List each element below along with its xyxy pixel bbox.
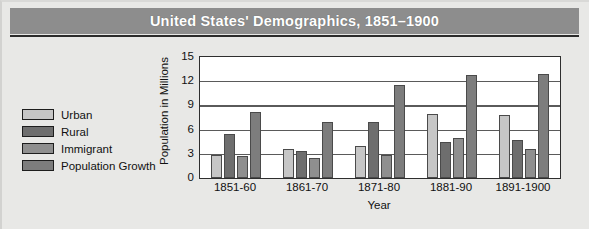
bar xyxy=(525,149,536,178)
x-axis-tick-label: 1851-60 xyxy=(199,181,271,193)
y-axis-title-text: Population in Millions xyxy=(158,57,170,165)
chart-plot-area: Population in Millions 03691215 1851-601… xyxy=(160,44,580,224)
y-axis-tick-label: 12 xyxy=(181,74,194,86)
x-axis-tick-label: 1861-70 xyxy=(271,181,343,193)
bar xyxy=(296,151,307,178)
bar xyxy=(427,114,438,178)
legend-label: Population Growth xyxy=(61,160,156,172)
legend-swatch xyxy=(22,160,54,171)
chart-legend: UrbanRuralImmigrantPopulation Growth xyxy=(22,106,172,174)
y-axis-title: Population in Millions xyxy=(156,44,172,178)
page-title: United States' Demographics, 1851–1900 xyxy=(150,13,439,29)
x-axis-title: Year xyxy=(199,199,559,211)
bar xyxy=(224,134,235,178)
x-axis-tick-label: 1871-80 xyxy=(343,181,415,193)
legend-item: Urban xyxy=(22,106,172,123)
bar-group xyxy=(488,57,560,178)
bar xyxy=(250,112,261,178)
x-axis-ticks: 1851-601861-701871-801881-901891-1900 xyxy=(199,181,559,193)
bar xyxy=(368,122,379,178)
bar xyxy=(322,122,333,178)
bar xyxy=(381,155,392,178)
bar xyxy=(499,115,510,178)
bar xyxy=(453,138,464,178)
legend-item: Immigrant xyxy=(22,140,172,157)
legend-label: Rural xyxy=(61,126,88,138)
bar-groups xyxy=(200,57,560,178)
title-divider xyxy=(10,35,579,37)
y-axis-tick-label: 6 xyxy=(188,123,194,135)
legend-item: Rural xyxy=(22,123,172,140)
legend-label: Immigrant xyxy=(61,143,112,155)
y-axis-tick-label: 15 xyxy=(181,50,194,62)
legend-label: Urban xyxy=(61,109,92,121)
bar-group xyxy=(200,57,272,178)
bar-group xyxy=(272,57,344,178)
chart-title-band: United States' Demographics, 1851–1900 xyxy=(10,8,579,34)
plot-frame xyxy=(199,56,561,179)
bar xyxy=(512,140,523,178)
legend-swatch xyxy=(22,126,54,137)
y-axis-tick-label: 3 xyxy=(188,147,194,159)
bar xyxy=(466,75,477,178)
bar xyxy=(283,149,294,178)
bar-group xyxy=(416,57,488,178)
bar xyxy=(394,85,405,178)
bar xyxy=(440,142,451,178)
legend-item: Population Growth xyxy=(22,157,172,174)
legend-swatch xyxy=(22,143,54,154)
bar-group xyxy=(344,57,416,178)
x-axis-tick-label: 1881-90 xyxy=(415,181,487,193)
y-axis-ticks: 03691215 xyxy=(174,44,196,178)
y-axis-tick-label: 9 xyxy=(188,98,194,110)
y-axis-tick-label: 0 xyxy=(188,171,194,183)
bar xyxy=(538,74,549,178)
bar xyxy=(309,158,320,178)
bar xyxy=(211,155,222,178)
bar xyxy=(355,146,366,178)
chart-figure: United States' Demographics, 1851–1900 U… xyxy=(0,0,589,229)
x-axis-tick-label: 1891-1900 xyxy=(487,181,559,193)
legend-swatch xyxy=(22,109,54,120)
bar xyxy=(237,156,248,178)
